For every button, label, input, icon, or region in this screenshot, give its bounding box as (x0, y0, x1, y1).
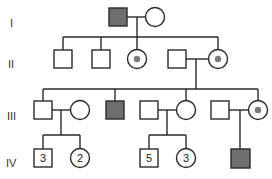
female-i-2 (146, 8, 165, 27)
female-iii-5 (177, 101, 196, 120)
connector-lines (43, 17, 258, 149)
individuals (34, 8, 268, 169)
carrier-dot-icon (215, 56, 221, 62)
female-iii-2 (71, 101, 90, 120)
carrier-dot-icon (255, 107, 261, 113)
generation-label-iii: III (7, 110, 16, 122)
generation-label-ii: II (8, 58, 14, 70)
male-ii-4 (168, 50, 186, 68)
count-iv-1: 3 (40, 152, 46, 164)
pedigree-chart: I II III IV 3 2 5 3 (0, 0, 272, 179)
male-ii-2 (92, 50, 110, 68)
male-ii-1 (54, 50, 72, 68)
male-iii-4 (140, 101, 158, 119)
count-iv-3: 5 (146, 152, 152, 164)
generation-label-iv: IV (6, 157, 17, 169)
male-iii-6 (211, 101, 229, 119)
count-iv-2: 2 (77, 152, 83, 164)
male-iii-1 (34, 101, 52, 119)
affected-male-iii-3 (106, 101, 124, 119)
carrier-dot-icon (134, 56, 140, 62)
generation-label-i: I (10, 17, 13, 29)
affected-male-iv-5 (231, 149, 250, 168)
affected-male-i-1 (109, 8, 127, 26)
count-iv-4: 3 (183, 152, 189, 164)
